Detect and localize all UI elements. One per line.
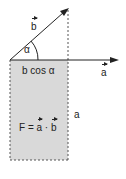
vector-b-label: b (31, 22, 37, 32)
angle-arc (31, 41, 38, 60)
angle-label: α (24, 45, 30, 55)
formula: F = a · b (19, 123, 57, 133)
vector-a-label: a (101, 68, 107, 78)
diagram-canvas (0, 0, 126, 179)
arrowhead-a-icon (110, 57, 119, 63)
projection-label: b cos α (22, 66, 54, 76)
side-a-label: a (74, 110, 80, 120)
